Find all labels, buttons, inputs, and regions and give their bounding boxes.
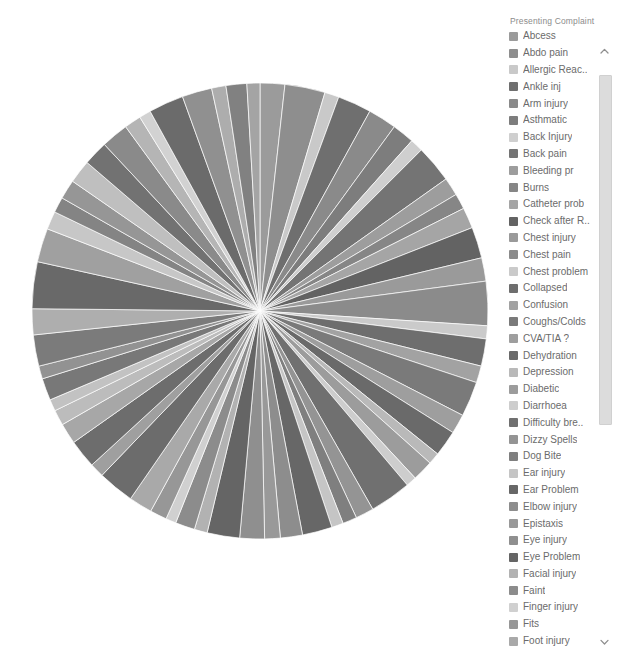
legend-item[interactable]: Chest pain bbox=[507, 246, 607, 263]
legend-item-label: Collapsed bbox=[523, 282, 567, 294]
legend-swatch bbox=[509, 435, 518, 444]
legend-panel: Presenting Complaint AbcessAbdo painAlle… bbox=[507, 14, 635, 664]
legend-item[interactable]: Diabetic bbox=[507, 381, 607, 398]
legend-item[interactable]: Bleeding pr bbox=[507, 162, 607, 179]
legend-item[interactable]: Difficulty bre.. bbox=[507, 414, 607, 431]
legend-swatch bbox=[509, 519, 518, 528]
legend-swatch bbox=[509, 116, 518, 125]
legend-swatch bbox=[509, 385, 518, 394]
legend-item-label: Arm injury bbox=[523, 98, 568, 110]
legend-item-label: Chest injury bbox=[523, 232, 576, 244]
legend-item[interactable]: Eye Problem bbox=[507, 549, 607, 566]
legend-item[interactable]: Dizzy Spells bbox=[507, 431, 607, 448]
legend-item[interactable]: Coughs/Colds bbox=[507, 314, 607, 331]
legend-item[interactable]: Confusion bbox=[507, 297, 607, 314]
legend-item-list[interactable]: AbcessAbdo painAllergic Reac..Ankle injA… bbox=[507, 28, 607, 650]
legend-swatch bbox=[509, 334, 518, 343]
legend-swatch bbox=[509, 217, 518, 226]
legend-swatch bbox=[509, 149, 518, 158]
legend-item[interactable]: Dog Bite bbox=[507, 448, 607, 465]
legend-item[interactable]: Back Injury bbox=[507, 129, 607, 146]
legend-item-label: Depression bbox=[523, 366, 574, 378]
legend-swatch bbox=[509, 301, 518, 310]
legend-item[interactable]: Allergic Reac.. bbox=[507, 62, 607, 79]
legend-item-label: Dog Bite bbox=[523, 450, 561, 462]
legend-swatch bbox=[509, 65, 518, 74]
legend-item[interactable]: Dehydration bbox=[507, 347, 607, 364]
legend-item-label: Faint bbox=[523, 585, 545, 597]
legend-item[interactable]: Epistaxis bbox=[507, 515, 607, 532]
legend-item-label: Eye Problem bbox=[523, 551, 580, 563]
legend-item-label: Coughs/Colds bbox=[523, 316, 586, 328]
legend-swatch bbox=[509, 284, 518, 293]
scrollbar-track[interactable] bbox=[598, 57, 611, 635]
legend-item[interactable]: Chest injury bbox=[507, 230, 607, 247]
legend-swatch bbox=[509, 267, 518, 276]
legend-item[interactable]: Fits bbox=[507, 616, 607, 633]
legend-item-label: Diarrhoea bbox=[523, 400, 567, 412]
legend-item[interactable]: Asthmatic bbox=[507, 112, 607, 129]
legend-swatch bbox=[509, 317, 518, 326]
legend-item[interactable]: Abdo pain bbox=[507, 45, 607, 62]
legend-item[interactable]: Chest problem bbox=[507, 263, 607, 280]
legend-swatch bbox=[509, 32, 518, 41]
legend-item[interactable]: Faint bbox=[507, 582, 607, 599]
legend-item[interactable]: CVA/TIA ? bbox=[507, 330, 607, 347]
legend-item-label: Burns bbox=[523, 182, 549, 194]
scrollbar-thumb[interactable] bbox=[599, 75, 612, 425]
legend-swatch bbox=[509, 620, 518, 629]
legend-scrollbar[interactable] bbox=[598, 44, 611, 648]
legend-item[interactable]: Ear Problem bbox=[507, 482, 607, 499]
pie-slice-group bbox=[32, 83, 488, 539]
legend-item[interactable]: Elbow injury bbox=[507, 498, 607, 515]
legend-swatch bbox=[509, 200, 518, 209]
legend-swatch bbox=[509, 452, 518, 461]
legend-item-label: Asthmatic bbox=[523, 114, 567, 126]
legend-swatch bbox=[509, 536, 518, 545]
legend-swatch bbox=[509, 133, 518, 142]
legend-item[interactable]: Foot injury bbox=[507, 633, 607, 650]
legend-item-label: Chest pain bbox=[523, 249, 571, 261]
legend-swatch bbox=[509, 418, 518, 427]
legend-item-label: Ankle inj bbox=[523, 81, 561, 93]
legend-title: Presenting Complaint bbox=[507, 14, 635, 28]
legend-item-label: Foot injury bbox=[523, 635, 570, 647]
legend-item[interactable]: Back pain bbox=[507, 146, 607, 163]
legend-item[interactable]: Finger injury bbox=[507, 599, 607, 616]
legend-item-label: Dizzy Spells bbox=[523, 434, 577, 446]
legend-item[interactable]: Abcess bbox=[507, 28, 607, 45]
legend-item-label: Check after R.. bbox=[523, 215, 590, 227]
pie-chart[interactable] bbox=[32, 80, 488, 542]
legend-item-label: Elbow injury bbox=[523, 501, 577, 513]
legend-swatch bbox=[509, 99, 518, 108]
legend-swatch bbox=[509, 553, 518, 562]
legend-swatch bbox=[509, 49, 518, 58]
legend-item[interactable]: Collapsed bbox=[507, 280, 607, 297]
legend-item[interactable]: Burns bbox=[507, 179, 607, 196]
chevron-down-icon[interactable] bbox=[598, 635, 611, 648]
legend-item-label: Confusion bbox=[523, 299, 568, 311]
legend-item[interactable]: Arm injury bbox=[507, 95, 607, 112]
legend-swatch bbox=[509, 485, 518, 494]
legend-swatch bbox=[509, 250, 518, 259]
legend-swatch bbox=[509, 401, 518, 410]
legend-item[interactable]: Facial injury bbox=[507, 566, 607, 583]
legend-item[interactable]: Depression bbox=[507, 364, 607, 381]
legend-item-label: Diabetic bbox=[523, 383, 559, 395]
legend-item[interactable]: Ear injury bbox=[507, 465, 607, 482]
legend-item-label: Fits bbox=[523, 618, 539, 630]
chevron-up-icon[interactable] bbox=[598, 44, 611, 57]
legend-item[interactable]: Generally un.. bbox=[507, 649, 607, 650]
legend-item[interactable]: Eye injury bbox=[507, 532, 607, 549]
legend-swatch bbox=[509, 469, 518, 478]
legend-item-label: Chest problem bbox=[523, 266, 588, 278]
legend-item[interactable]: Diarrhoea bbox=[507, 398, 607, 415]
legend-item[interactable]: Catheter prob bbox=[507, 196, 607, 213]
legend-item-label: CVA/TIA ? bbox=[523, 333, 569, 345]
legend-item[interactable]: Ankle inj bbox=[507, 78, 607, 95]
legend-item-label: Ear injury bbox=[523, 467, 565, 479]
legend-item[interactable]: Check after R.. bbox=[507, 213, 607, 230]
legend-swatch bbox=[509, 166, 518, 175]
legend-swatch bbox=[509, 183, 518, 192]
pie-chart-canvas[interactable] bbox=[32, 80, 488, 542]
